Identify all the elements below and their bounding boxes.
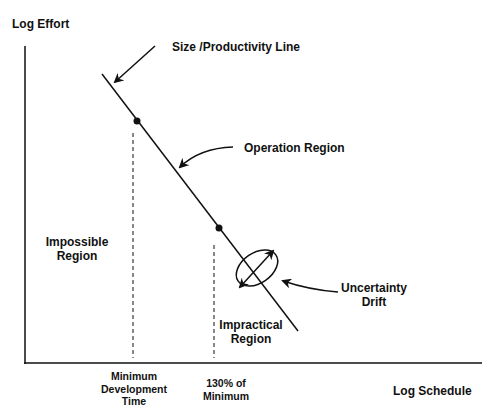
uncertainty-line2: Drift xyxy=(333,295,415,309)
min-time-point xyxy=(134,118,141,125)
diagram-canvas xyxy=(0,0,497,419)
tick-130pct: 130% of Minimum xyxy=(196,377,256,402)
tick-min-line1: Minimum xyxy=(98,370,170,383)
uncertainty-line1: Uncertainty xyxy=(333,281,415,295)
impossible-line1: Impossible xyxy=(42,235,112,249)
130pct-point xyxy=(216,225,223,232)
y-axis-label: Log Effort xyxy=(12,17,69,31)
impractical-line1: Impractical xyxy=(216,318,286,332)
tick-min-line3: Time xyxy=(98,395,170,408)
line-label: Size /Productivity Line xyxy=(172,40,300,54)
uncertainty-drift-label: Uncertainty Drift xyxy=(333,281,415,309)
uncertainty-double-arrow xyxy=(240,251,273,287)
tick-min-dev-time: Minimum Development Time xyxy=(98,370,170,408)
line-label-arrow xyxy=(115,46,155,82)
size-productivity-line xyxy=(102,74,298,331)
uncertainty-arrow xyxy=(283,281,338,292)
impractical-region-label: Impractical Region xyxy=(216,318,286,346)
impossible-region-label: Impossible Region xyxy=(42,235,112,263)
tick-130-line2: Minimum xyxy=(196,390,256,403)
impractical-line2: Region xyxy=(216,332,286,346)
x-axis-label: Log Schedule xyxy=(393,384,472,398)
impossible-line2: Region xyxy=(42,249,112,263)
operation-region-label: Operation Region xyxy=(244,141,345,155)
tick-min-line2: Development xyxy=(98,383,170,396)
tick-130-line1: 130% of xyxy=(196,377,256,390)
operation-region-arrow xyxy=(180,147,233,167)
